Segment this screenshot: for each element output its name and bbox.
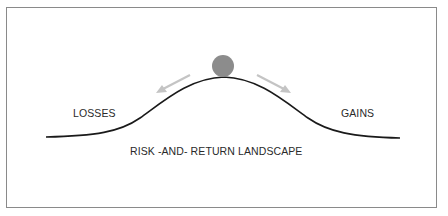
diagram-caption: RISK -AND- RETURN LANDSCAPE [130, 145, 302, 157]
ball-icon [212, 55, 234, 77]
arrow-left-icon [156, 75, 190, 93]
gains-label: GAINS [341, 107, 374, 119]
arrow-right-icon [257, 75, 291, 93]
losses-label: LOSSES [73, 107, 116, 119]
landscape-diagram [0, 0, 448, 216]
